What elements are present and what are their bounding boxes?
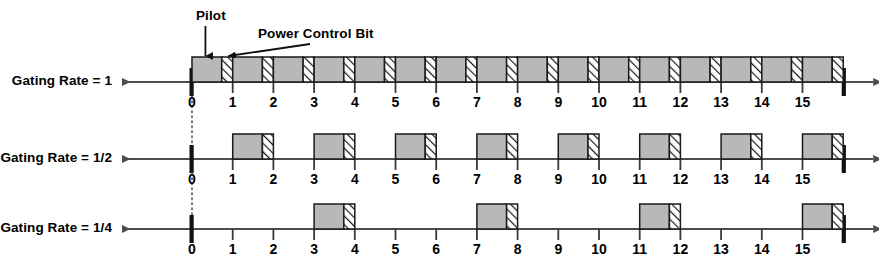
power-control-bit-block-gating-rate-1-11 [669,57,680,82]
pilot-block-gating-rate-1-2-5 [396,134,426,159]
pilot-block-gating-rate-1-4-15 [803,204,833,229]
power-control-bit-block-gating-rate-1-2-11 [669,134,680,159]
diagram-svg [0,0,879,271]
pilot-block-gating-rate-1-13 [721,57,751,82]
slot-number-gating-rate-1-8: 8 [498,94,538,110]
power-control-bit-block-gating-rate-1-12 [710,57,721,82]
slot-number-gating-rate-1-4-3: 3 [294,241,334,257]
pilot-block-gating-rate-1-2-7 [477,134,507,159]
pilot-block-gating-rate-1-8 [518,57,548,82]
power-control-bit-block-gating-rate-1-9 [588,57,599,82]
slot-number-gating-rate-1-4-14: 14 [742,241,782,257]
pilot-block-gating-rate-1-4 [355,57,385,82]
slot-number-gating-rate-1-11: 11 [620,94,660,110]
pilot-block-gating-rate-1-2-11 [640,134,670,159]
slot-number-gating-rate-1-14: 14 [742,94,782,110]
slot-number-gating-rate-1-4-2: 2 [253,241,293,257]
power-control-bit-block-gating-rate-1-8 [547,57,558,82]
power-control-bit-block-gating-rate-1-4-15 [832,204,843,229]
power-control-bit-block-gating-rate-1-4 [385,57,396,82]
annotation-arrow-power-control-bit [228,44,310,56]
pilot-block-gating-rate-1-6 [436,57,466,82]
annotation-label-power-control-bit: Power Control Bit [258,26,374,41]
slot-number-gating-rate-1-15: 15 [783,94,823,110]
power-control-bit-block-gating-rate-1-1 [262,57,273,82]
power-control-bit-block-gating-rate-1-4-3 [344,204,355,229]
power-control-bit-block-gating-rate-1-4-7 [507,204,518,229]
slot-number-gating-rate-1-4-9: 9 [538,241,578,257]
power-control-bit-block-gating-rate-1-2 [303,57,314,82]
pilot-block-gating-rate-1-9 [558,57,588,82]
pilot-block-gating-rate-1-3 [314,57,344,82]
pilot-block-gating-rate-1-15 [803,57,833,82]
slot-number-gating-rate-1-4-10: 10 [579,241,619,257]
origin-bar-gating-rate-1-2 [190,145,194,173]
slot-number-gating-rate-1-4-8: 8 [498,241,538,257]
slot-number-gating-rate-1-0: 0 [172,94,212,110]
pilot-block-gating-rate-1-11 [640,57,670,82]
row-label-gating-rate-1-2: Gating Rate = 1/2 [0,150,112,165]
pilot-block-gating-rate-1-10 [599,57,629,82]
slot-number-gating-rate-1-2-7: 7 [457,171,497,187]
slot-number-gating-rate-1-4-4: 4 [335,241,375,257]
slot-number-gating-rate-1-9: 9 [538,94,578,110]
slot-number-gating-rate-1-2-6: 6 [416,171,456,187]
pilot-block-gating-rate-1-0 [192,57,222,82]
slot-number-gating-rate-1-4-12: 12 [660,241,700,257]
power-control-bit-block-gating-rate-1-15 [832,57,843,82]
annotation-label-pilot: Pilot [196,8,226,23]
slot-number-gating-rate-1-4-7: 7 [457,241,497,257]
pilot-block-gating-rate-1-4-7 [477,204,507,229]
slot-number-gating-rate-1-2-9: 9 [538,171,578,187]
slot-number-gating-rate-1-2-13: 13 [701,171,741,187]
slot-number-gating-rate-1-2-3: 3 [294,171,334,187]
origin-bar-gating-rate-1-4 [190,215,194,243]
pilot-block-gating-rate-1-4-11 [640,204,670,229]
power-control-bit-block-gating-rate-1-7 [507,57,518,82]
slot-number-gating-rate-1-5: 5 [376,94,416,110]
power-control-bit-block-gating-rate-1-0 [222,57,233,82]
power-control-bit-block-gating-rate-1-5 [425,57,436,82]
power-control-bit-block-gating-rate-1-13 [751,57,762,82]
power-control-bit-block-gating-rate-1-2-7 [507,134,518,159]
slot-number-gating-rate-1-2: 2 [253,94,293,110]
pilot-block-gating-rate-1-12 [680,57,710,82]
slot-number-gating-rate-1-12: 12 [660,94,700,110]
slot-number-gating-rate-1-2-11: 11 [620,171,660,187]
row-label-gating-rate-1: Gating Rate = 1 [0,73,112,88]
power-control-bit-block-gating-rate-1-2-3 [344,134,355,159]
slot-number-gating-rate-1-4: 4 [335,94,375,110]
power-control-bit-block-gating-rate-1-14 [792,57,803,82]
slot-number-gating-rate-1-4-15: 15 [783,241,823,257]
power-control-bit-block-gating-rate-1-2-5 [425,134,436,159]
pilot-block-gating-rate-1-2-9 [558,134,588,159]
slot-number-gating-rate-1-2-15: 15 [783,171,823,187]
power-control-bit-block-gating-rate-1-3 [344,57,355,82]
slot-number-gating-rate-1-1: 1 [213,94,253,110]
slot-number-gating-rate-1-2-8: 8 [498,171,538,187]
pilot-block-gating-rate-1-5 [396,57,426,82]
power-control-bit-block-gating-rate-1-2-15 [832,134,843,159]
pilot-block-gating-rate-1-2 [273,57,303,82]
slot-number-gating-rate-1-4-0: 0 [172,241,212,257]
pilot-block-gating-rate-1-2-13 [721,134,751,159]
power-control-bit-block-gating-rate-1-4-11 [669,204,680,229]
diagram-canvas: 0123456789101112131415Gating Rate = 1012… [0,0,879,271]
slot-number-gating-rate-1-4-5: 5 [376,241,416,257]
power-control-bit-block-gating-rate-1-2-13 [751,134,762,159]
pilot-block-gating-rate-1-2-3 [314,134,344,159]
slot-number-gating-rate-1-2-10: 10 [579,171,619,187]
pilot-block-gating-rate-1-2-15 [803,134,833,159]
slot-number-gating-rate-1-2-2: 2 [253,171,293,187]
slot-number-gating-rate-1-2-1: 1 [213,171,253,187]
row-label-gating-rate-1-4: Gating Rate = 1/4 [0,220,112,235]
slot-number-gating-rate-1-4-6: 6 [416,241,456,257]
pilot-block-gating-rate-1-7 [477,57,507,82]
power-control-bit-block-gating-rate-1-2-9 [588,134,599,159]
slot-number-gating-rate-1-2-14: 14 [742,171,782,187]
pilot-block-gating-rate-1-14 [762,57,792,82]
slot-number-gating-rate-1-7: 7 [457,94,497,110]
slot-number-gating-rate-1-3: 3 [294,94,334,110]
slot-number-gating-rate-1-2-5: 5 [376,171,416,187]
slot-number-gating-rate-1-2-4: 4 [335,171,375,187]
